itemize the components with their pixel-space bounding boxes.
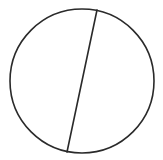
circle-chord-diagram <box>0 0 163 160</box>
diagram-canvas <box>0 0 163 160</box>
chord-line <box>67 10 97 152</box>
